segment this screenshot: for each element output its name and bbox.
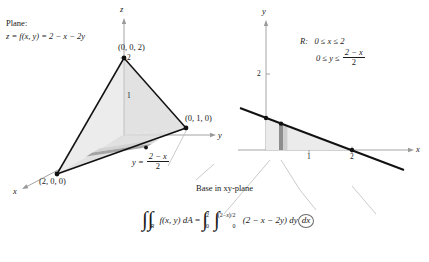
integral-expression: ∫∫R f(x, y) dA = ∫20∫(2−x)/20 (2 − x − 2… bbox=[142, 214, 314, 228]
outer-upper-limit: 2 bbox=[206, 212, 209, 218]
base-caption: Base in xy-plane bbox=[196, 183, 253, 194]
integral-integrand-left: f(x, y) dA bbox=[159, 215, 192, 225]
boundary-fraction-denominator: 2 bbox=[147, 161, 169, 172]
region-inequality-y-prefix: 0 ≤ y ≤ bbox=[316, 53, 340, 63]
plot2d-region bbox=[240, 108, 404, 170]
region-caption-row1: R: 0 ≤ x ≤ 2 bbox=[300, 36, 366, 47]
plot2d-x-axis-label: x bbox=[416, 144, 420, 154]
plot3d-z-tick-1: 1 bbox=[127, 91, 131, 100]
region-caption: R: 0 ≤ x ≤ 2 0 ≤ y ≤ 2 − x 2 bbox=[300, 36, 366, 67]
boundary-fraction-numerator: 2 − x bbox=[147, 152, 169, 161]
integral-equals: = bbox=[195, 215, 200, 225]
integral-region-subscript: R bbox=[151, 223, 155, 229]
integral-integrand-right: (2 − x − 2y) bbox=[243, 215, 287, 225]
region-caption-row2: 0 ≤ y ≤ 2 − x 2 bbox=[300, 48, 366, 68]
region-label: R: bbox=[300, 36, 308, 46]
double-integral-glyph-1: ∫ bbox=[142, 207, 148, 231]
vertex-label-apex: (0, 0, 2) bbox=[118, 42, 145, 53]
region-fraction-numerator: 2 − x bbox=[343, 48, 365, 57]
plot3d-y-axis-label: y bbox=[218, 130, 222, 140]
outer-lower-limit: 0 bbox=[206, 223, 209, 229]
region-fraction-denominator: 2 bbox=[343, 57, 365, 68]
boundary-equation-prefix: y = bbox=[132, 157, 144, 167]
math-figure: Plane: z = f(x, y) = 2 − x − 2y z y x 2 … bbox=[0, 0, 429, 262]
plane-caption-line2: z = f(x, y) = 2 − x − 2y bbox=[6, 31, 85, 42]
region-inequality-x: 0 ≤ x ≤ 2 bbox=[314, 36, 344, 46]
plane-caption: Plane: z = f(x, y) = 2 − x − 2y bbox=[6, 18, 85, 41]
plot2d-x-tick-2: 2 bbox=[350, 152, 354, 161]
vertex-label-y-intercept: (0, 1, 0) bbox=[185, 113, 212, 124]
integral-dx: dx bbox=[298, 214, 315, 228]
inner-upper-limit: (2−x)/2 bbox=[218, 212, 236, 218]
boundary-equation-fraction: 2 − x 2 bbox=[147, 152, 169, 172]
plot2d-x-tick-1: 1 bbox=[307, 152, 311, 161]
plot2d-y-axis-label: y bbox=[262, 6, 266, 16]
inner-lower-limit: 0 bbox=[233, 223, 236, 229]
integral-dy: dy bbox=[289, 215, 298, 225]
plot2d-y-tick-2: 2 bbox=[257, 69, 261, 78]
plane-caption-line1: Plane: bbox=[6, 18, 85, 29]
plot3d-x-axis-label: x bbox=[13, 186, 17, 196]
vertex-label-x-intercept: (2, 0, 0) bbox=[39, 176, 66, 187]
iterated-integral-inner: ∫ bbox=[214, 207, 220, 231]
plot3d-z-axis-label: z bbox=[120, 4, 123, 14]
region-inequality-y-fraction: 2 − x 2 bbox=[343, 48, 365, 68]
boundary-equation: y = 2 − x 2 bbox=[132, 152, 170, 172]
plot3d-z-tick-2: 2 bbox=[127, 53, 131, 62]
